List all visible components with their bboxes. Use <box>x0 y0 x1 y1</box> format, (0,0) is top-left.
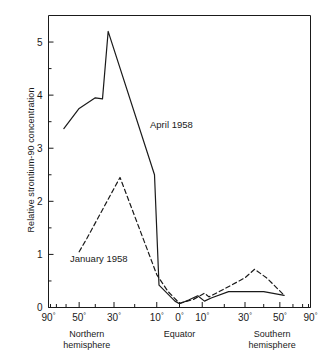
series-annotation-january-1958: January 1958 <box>70 253 128 264</box>
x-tick-label: 90° <box>304 312 318 323</box>
x-tick-label: 90° <box>42 312 56 323</box>
y-tick-label: 1 <box>37 249 43 260</box>
x-tick-label: 0° <box>175 312 184 323</box>
x-tick-label: 30° <box>107 312 121 323</box>
chart-canvas: 01234590°50°30°10°0°10°30°50°90°Northern… <box>0 0 333 361</box>
x-group-label-line1: Equator <box>164 329 196 339</box>
x-group-label-line2: hemisphere <box>249 340 296 350</box>
y-axis-title: Relative strontium-90 concentration <box>26 40 36 280</box>
x-tick-label: 50° <box>273 312 287 323</box>
x-group-label-line2: hemisphere <box>63 340 110 350</box>
x-tick-label: 30° <box>238 312 252 323</box>
y-tick-label: 2 <box>37 196 43 207</box>
y-tick-label: 3 <box>37 143 43 154</box>
x-group-label-line1: Northern <box>69 329 104 339</box>
x-tick-label: 10° <box>150 312 164 323</box>
series-line-january-1958 <box>79 177 284 303</box>
x-group-label-line1: Southern <box>254 329 291 339</box>
series-annotation-april-1958: April 1958 <box>150 119 193 130</box>
x-tick-label: 10° <box>195 312 209 323</box>
y-tick-label: 4 <box>37 90 43 101</box>
strontium-90-latitude-chart: Relative strontium-90 concentration 0123… <box>0 0 333 361</box>
y-tick-label: 5 <box>37 37 43 48</box>
x-tick-label: 50° <box>72 312 86 323</box>
